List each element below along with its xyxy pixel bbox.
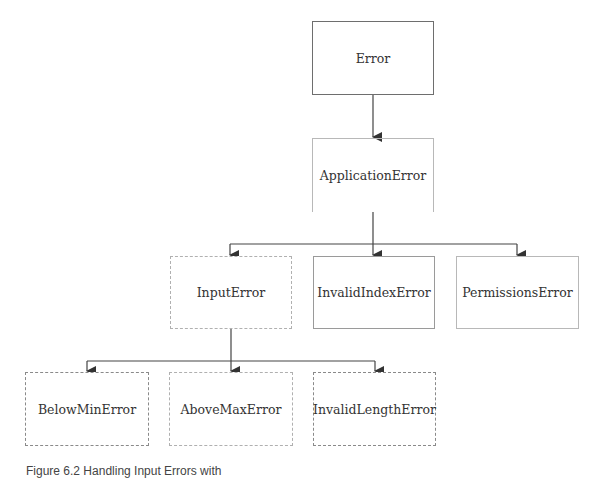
node-label: InputError <box>197 285 266 300</box>
node-error: Error <box>312 21 434 95</box>
node-label: InvalidLengthError <box>313 402 436 417</box>
node-above-max-error: AboveMaxError <box>169 372 293 446</box>
node-invalid-index-error: InvalidIndexError <box>313 256 435 329</box>
node-label: PermissionsError <box>462 285 572 300</box>
node-invalid-length-error: InvalidLengthError <box>313 372 436 446</box>
node-permissions-error: PermissionsError <box>456 256 579 329</box>
node-label: InvalidIndexError <box>317 285 431 300</box>
node-input-error: InputError <box>170 256 292 329</box>
node-label: Error <box>356 51 391 66</box>
node-label: ApplicationError <box>320 168 427 183</box>
node-label: AboveMaxError <box>181 402 282 417</box>
node-label: BelowMinError <box>38 402 136 417</box>
node-below-min-error: BelowMinError <box>25 372 149 446</box>
figure-caption: Figure 6.2 Handling Input Errors with <box>26 464 221 478</box>
node-application-error: ApplicationError <box>312 138 434 212</box>
